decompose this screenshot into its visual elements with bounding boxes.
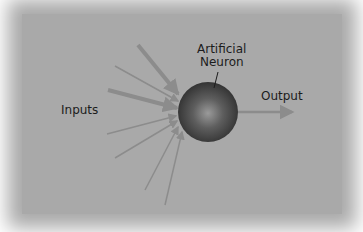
output-label: Output xyxy=(261,90,303,103)
inputs-label: Inputs xyxy=(61,104,98,117)
neuron-sphere xyxy=(178,82,238,142)
diagram-frame: Artificial Neuron Inputs Output xyxy=(0,0,363,232)
input-arrow-1 xyxy=(138,45,178,94)
input-arrow-7 xyxy=(165,132,182,205)
neuron-label-line2: Neuron xyxy=(197,56,246,69)
neuron-diagram-svg xyxy=(0,0,363,232)
input-arrow-4 xyxy=(107,116,176,134)
input-arrow-5 xyxy=(115,121,177,158)
neuron-label: Artificial Neuron xyxy=(197,43,246,69)
input-arrows xyxy=(107,45,182,205)
input-arrow-3 xyxy=(108,90,177,108)
